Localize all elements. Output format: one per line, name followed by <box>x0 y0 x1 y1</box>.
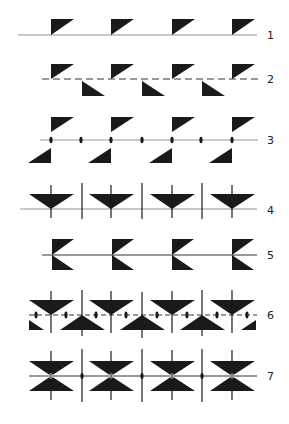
row-6-pattern: 6 <box>29 290 274 338</box>
frieze-patterns-figure: 1 2 <box>0 0 289 424</box>
row-label-1: 1 <box>267 29 274 42</box>
row-3-pattern: 3 <box>28 117 274 163</box>
row-1-pattern: 1 <box>18 19 274 42</box>
row-label-2: 2 <box>267 73 274 86</box>
row-label-3: 3 <box>267 134 274 147</box>
row-label-4: 4 <box>267 204 274 217</box>
row-7-pattern: 7 <box>29 349 274 402</box>
row-5-pattern: 5 <box>42 239 274 270</box>
row-label-5: 5 <box>267 249 274 262</box>
row-4-pattern: 4 <box>20 183 274 219</box>
row-2-pattern: 2 <box>42 64 274 96</box>
row-label-6: 6 <box>267 309 274 322</box>
row-label-7: 7 <box>267 370 274 383</box>
